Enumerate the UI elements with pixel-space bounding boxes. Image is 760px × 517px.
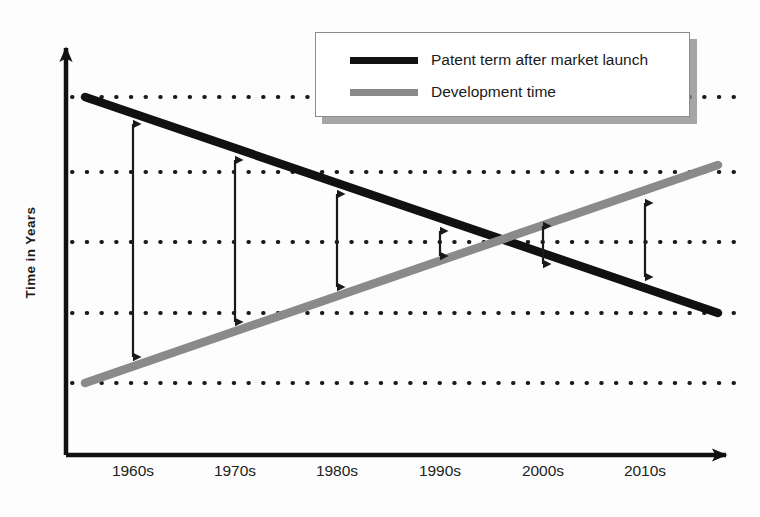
- legend-label-development-time: Development time: [431, 83, 556, 101]
- legend-label-patent-term: Patent term after market launch: [431, 51, 648, 69]
- y-axis-title: Time in Years: [23, 193, 38, 313]
- x-tick-label-1980s: 1980s: [297, 462, 377, 480]
- x-tick-label-1960s: 1960s: [93, 462, 173, 480]
- x-tick-label-2000s: 2000s: [503, 462, 583, 480]
- x-tick-label-1970s: 1970s: [195, 462, 275, 480]
- legend-entry-development-time: Development time: [350, 76, 689, 108]
- series-development-time: [85, 165, 718, 383]
- legend-swatch-patent-term-icon: [350, 57, 418, 64]
- chart-container: Time in Years 1960s 1970s 1980s 1990s 20…: [0, 0, 760, 517]
- patent-term-line: [85, 97, 718, 313]
- x-tick-label-2010s: 2010s: [605, 462, 685, 480]
- legend-entry-patent-term: Patent term after market launch: [350, 44, 689, 76]
- development-time-line: [85, 165, 718, 383]
- legend-swatch-development-time-icon: [350, 89, 418, 96]
- gap-annotation-arrows: [133, 124, 645, 357]
- chart-legend: Patent term after market launch Developm…: [315, 32, 690, 117]
- x-tick-label-1990s: 1990s: [400, 462, 480, 480]
- gridlines: [72, 97, 738, 383]
- series-patent-term: [85, 97, 718, 313]
